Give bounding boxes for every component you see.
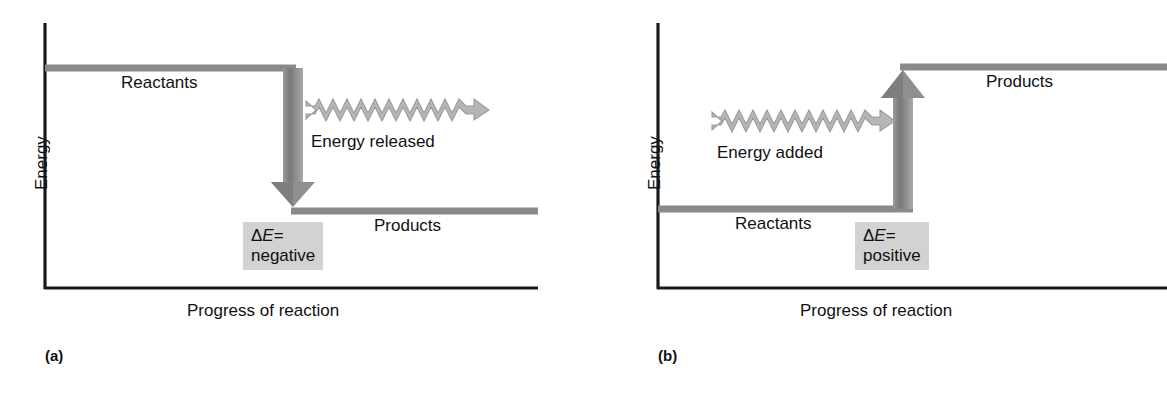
x-axis-label-a: Progress of reaction: [187, 301, 339, 320]
energy-change-arrow-down-a: [271, 68, 315, 207]
reactants-label-b: Reactants: [735, 214, 812, 233]
delta-e-box-b: ΔE= positive: [855, 222, 929, 270]
x-axis-label-b: Progress of reaction: [800, 301, 952, 320]
delta-e-expression-b: ΔE=: [863, 226, 921, 246]
panel-b-endothermic: Energy Products Reactants Energy added Δ…: [583, 0, 1167, 408]
energy-added-squiggle-arrow-b: [712, 110, 895, 132]
y-axis-label-a: Energy: [32, 136, 51, 190]
panel-a-exothermic: Energy Reactants Products Energy release…: [0, 0, 584, 408]
reactants-label-a: Reactants: [121, 73, 198, 92]
delta-e-box-a: ΔE= negative: [243, 222, 323, 270]
delta-e-value-b: positive: [863, 246, 921, 266]
energy-change-arrow-up-b: [881, 70, 925, 209]
products-label-b: Products: [986, 72, 1053, 91]
energy-added-label-b: Energy added: [717, 143, 823, 162]
energy-released-squiggle-arrow-a: [306, 99, 489, 121]
delta-e-expression-a: ΔE=: [251, 226, 315, 246]
energy-released-label-a: Energy released: [311, 132, 435, 151]
y-axis-label-b: Energy: [645, 136, 664, 190]
delta-e-value-a: negative: [251, 246, 315, 266]
products-label-a: Products: [374, 216, 441, 235]
panel-caption-a: (a): [45, 348, 63, 365]
panel-a-graphics: [0, 0, 584, 408]
panel-caption-b: (b): [658, 348, 677, 365]
energy-diagram-figure: Energy Reactants Products Energy release…: [0, 0, 1167, 408]
